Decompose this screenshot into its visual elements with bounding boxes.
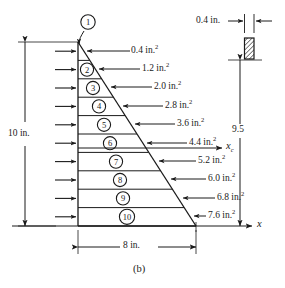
- left-edge-arrows: [55, 51, 76, 217]
- strip-element-detail: [228, 14, 272, 59]
- area-label-6: 4.4 in.2: [189, 138, 216, 148]
- strip-marker-3: 3: [88, 84, 98, 93]
- area-label-8: 6.0 in.2: [208, 174, 235, 184]
- axis-label-x: x: [257, 219, 262, 230]
- area-label-10: 7.6 in.2: [208, 211, 235, 221]
- strip-number-circles: [80, 15, 134, 225]
- figure-canvas: 1 2 3 4 5 6 7 8 9 10 0.4 in.2 1.2 in.2 2…: [0, 0, 285, 288]
- height-dimension-label: 10 in.: [8, 129, 30, 139]
- figure-caption: (b): [133, 264, 145, 275]
- area-label-1: 0.4 in.2: [131, 46, 158, 56]
- base-dimension-label: 8 in.: [123, 241, 140, 251]
- diagram-svg: [0, 0, 285, 288]
- area-label-4: 2.8 in.2: [165, 101, 192, 111]
- centroid-dimension-label: 9.5: [232, 125, 244, 135]
- strip-marker-7: 7: [111, 158, 121, 167]
- strip-marker-10: 10: [120, 213, 134, 222]
- area-label-7: 5.2 in.2: [198, 156, 225, 166]
- strip-marker-2: 2: [82, 66, 92, 75]
- strip-marker-1: 1: [83, 18, 93, 27]
- axis-label-xc: xc: [226, 141, 234, 152]
- area-label-2: 1.2 in.2: [142, 64, 169, 74]
- area-label-9: 6.8 in.2: [217, 193, 244, 203]
- area-label-3: 2.0 in.2: [154, 82, 181, 92]
- strip-marker-5: 5: [99, 121, 109, 130]
- area-label-5: 3.6 in.2: [177, 119, 204, 129]
- strip-marker-9: 9: [118, 194, 128, 203]
- strip-marker-8: 8: [115, 176, 125, 185]
- strip-marker-4: 4: [94, 102, 104, 111]
- strip-thickness-label: 0.4 in.: [196, 16, 220, 26]
- strip-marker-6: 6: [105, 139, 115, 148]
